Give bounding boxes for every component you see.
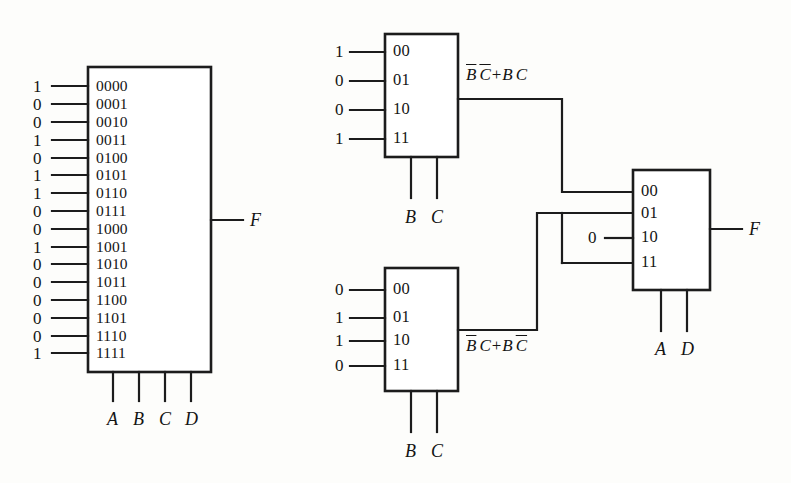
- mux-right-constant-zero: 0: [588, 229, 597, 246]
- mux16-input-code-8: 1000: [96, 221, 128, 237]
- mux-top-output-wire: [458, 99, 633, 192]
- mux-top-input-code-1: 01: [393, 72, 410, 89]
- mux-bottom-input-code-0: 00: [393, 281, 410, 298]
- mux-top-input-wires: [350, 52, 385, 139]
- mux16-input-wires: [52, 86, 88, 353]
- mux16-input-value-9: 1: [33, 239, 42, 256]
- mux-top-select-label-b: B: [405, 208, 416, 226]
- mux16-input-value-7: 0: [33, 203, 42, 220]
- mux16-select-label-a: A: [107, 410, 118, 428]
- mux16-input-code-6: 0110: [96, 185, 127, 201]
- mux16-input-code-12: 1100: [96, 292, 127, 308]
- mux-right-select-wires: [661, 290, 687, 331]
- mux-bottom-input-value-3: 0: [335, 357, 344, 374]
- mux16-input-code-10: 1010: [96, 256, 128, 272]
- mux16-input-value-3: 1: [33, 132, 42, 149]
- mux-top-input-code-2: 10: [393, 101, 410, 118]
- mux16-input-code-7: 0111: [96, 203, 127, 219]
- mux16-select-wires: [113, 372, 191, 401]
- mux-bottom-select-label-b: B: [405, 442, 416, 460]
- mux16-input-value-5: 1: [33, 167, 42, 184]
- mux16-input-value-4: 0: [33, 150, 42, 167]
- mux-top-input-code-3: 11: [393, 130, 410, 147]
- mux16-input-value-2: 0: [33, 114, 42, 131]
- circuit-diagram: 1 0 0 1 0 1 1 0 0 1 0 0 0 0 0 1 0000 000…: [0, 0, 791, 483]
- mux-right-output-label: F: [749, 220, 760, 238]
- mux16-select-label-d: D: [185, 410, 198, 428]
- mux16-input-value-6: 1: [33, 185, 42, 202]
- mux16-input-value-14: 0: [33, 328, 42, 345]
- mux-top-input-code-0: 00: [393, 43, 410, 60]
- mux16-input-code-1: 0001: [96, 96, 128, 112]
- mux-bottom-input-code-2: 10: [393, 332, 410, 349]
- mux16-input-code-0: 0000: [96, 78, 128, 94]
- mux16-input-code-2: 0010: [96, 114, 128, 130]
- mux-bottom-output-expression: BC+BC: [466, 337, 527, 354]
- mux-right-select-label-a: A: [655, 340, 666, 358]
- mux16-select-label-c: C: [159, 410, 171, 428]
- mux16-input-code-4: 0100: [96, 150, 128, 166]
- mux-right-input-code-3: 11: [641, 254, 658, 271]
- mux16-input-value-13: 0: [33, 310, 42, 327]
- mux16-input-code-14: 1110: [96, 328, 127, 344]
- mux-top-select-wires: [411, 157, 437, 198]
- mux-top-output-expression: BC+BC: [466, 66, 527, 83]
- mux-bottom-input-value-2: 1: [335, 332, 344, 349]
- mux16-output-label: F: [250, 211, 261, 229]
- mux-top-input-value-1: 0: [335, 72, 344, 89]
- mux16-input-code-11: 1011: [96, 274, 127, 290]
- mux-bottom-select-label-c: C: [431, 442, 443, 460]
- mux-bottom-input-code-3: 11: [393, 357, 410, 374]
- mux16-input-code-13: 1101: [96, 310, 127, 326]
- mux16-input-code-5: 0101: [96, 167, 128, 183]
- mux-bottom-input-value-0: 0: [335, 281, 344, 298]
- mux16-select-label-b: B: [133, 410, 144, 428]
- mux-top-select-label-c: C: [431, 208, 443, 226]
- mux-right-input-code-2: 10: [641, 229, 658, 246]
- mux16-input-value-8: 0: [33, 221, 42, 238]
- mux-bottom-output-wire: [458, 213, 633, 330]
- mux-bottom-select-wires: [411, 391, 437, 432]
- mux-top-input-value-0: 1: [335, 43, 344, 60]
- mux16-input-value-1: 0: [33, 96, 42, 113]
- mux-right-input-code-0: 00: [641, 183, 658, 200]
- mux16-input-value-12: 0: [33, 292, 42, 309]
- mux-top-input-value-3: 1: [335, 130, 344, 147]
- mux-right-select-label-d: D: [681, 340, 694, 358]
- mux16-input-code-3: 0011: [96, 132, 127, 148]
- mux-top-input-value-2: 0: [335, 101, 344, 118]
- mux-right-input-code-1: 01: [641, 205, 658, 222]
- mux-bottom-input-code-1: 01: [393, 309, 410, 326]
- mux16-input-value-15: 1: [33, 345, 42, 362]
- mux-bottom-input-wires: [350, 290, 385, 366]
- mux-bottom-input-value-1: 1: [335, 309, 344, 326]
- mux16-input-value-10: 0: [33, 256, 42, 273]
- mux16-input-value-0: 1: [33, 78, 42, 95]
- mux16-input-code-9: 1001: [96, 239, 128, 255]
- mux16-input-code-15: 1111: [96, 345, 126, 361]
- mux16-input-value-11: 0: [33, 274, 42, 291]
